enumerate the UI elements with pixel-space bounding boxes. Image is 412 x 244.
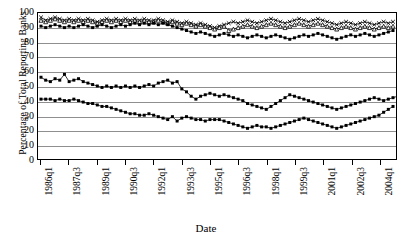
data-point	[265, 108, 268, 111]
data-point	[391, 24, 395, 28]
data-point	[82, 80, 85, 83]
data-point	[152, 22, 155, 25]
data-point	[232, 35, 235, 38]
data-point	[345, 105, 348, 108]
data-point	[129, 112, 132, 115]
data-point	[335, 27, 339, 31]
data-point	[49, 25, 52, 28]
x-tick	[97, 160, 98, 165]
data-point	[288, 24, 292, 28]
data-point	[232, 122, 235, 125]
data-point	[223, 93, 226, 96]
data-point	[316, 32, 319, 35]
data-point	[302, 117, 305, 120]
data-point	[302, 23, 306, 27]
data-point	[194, 98, 197, 101]
data-point	[91, 83, 94, 86]
data-point	[119, 86, 122, 89]
data-point	[377, 26, 381, 30]
data-point	[157, 115, 160, 118]
data-point	[255, 105, 258, 108]
data-point	[194, 118, 197, 121]
y-tick-label: 0	[29, 155, 34, 165]
data-point	[260, 125, 263, 128]
x-tick-label: 1989q1	[101, 167, 111, 196]
data-point	[190, 31, 193, 34]
data-point	[392, 29, 395, 32]
data-point	[171, 115, 174, 118]
data-point	[105, 85, 108, 88]
data-point	[91, 102, 94, 105]
data-point	[335, 38, 338, 41]
data-point	[129, 86, 132, 89]
data-point	[288, 38, 291, 41]
data-point	[377, 98, 380, 101]
data-point	[199, 31, 202, 34]
x-tick-label: 2004q1	[384, 167, 394, 196]
data-point	[279, 99, 282, 102]
data-point	[335, 127, 338, 130]
data-point	[344, 24, 348, 28]
data-point	[250, 24, 254, 28]
data-point	[269, 21, 273, 25]
data-point	[39, 98, 42, 101]
data-point	[386, 26, 390, 30]
data-point	[354, 35, 357, 38]
data-point	[162, 80, 165, 83]
data-point	[185, 29, 188, 32]
data-point	[86, 25, 89, 28]
data-point	[227, 33, 230, 36]
data-point	[218, 118, 221, 121]
data-point	[180, 23, 184, 27]
data-point	[138, 20, 142, 24]
data-point	[382, 32, 385, 35]
data-point	[321, 104, 324, 107]
x-tick	[295, 160, 296, 165]
y-tick-label: 40	[24, 96, 34, 106]
data-point	[77, 99, 80, 102]
data-point	[340, 125, 343, 128]
data-point	[363, 32, 366, 35]
data-point	[284, 36, 287, 39]
data-point	[101, 86, 104, 89]
data-point	[49, 80, 52, 83]
data-point	[326, 105, 329, 108]
data-point	[354, 121, 357, 124]
data-point	[293, 36, 296, 39]
data-point	[353, 27, 357, 31]
y-tick-label: 60	[24, 66, 34, 76]
data-point	[246, 36, 249, 39]
data-point	[138, 114, 141, 117]
data-point	[162, 22, 165, 25]
data-point	[326, 35, 329, 38]
data-point	[44, 26, 47, 29]
data-point	[180, 117, 183, 120]
data-point	[54, 77, 57, 80]
data-point	[96, 25, 99, 28]
data-point	[373, 115, 376, 118]
y-tick-label: 90	[24, 22, 34, 32]
data-point	[115, 85, 118, 88]
y-tick-label: 30	[24, 111, 34, 121]
data-point	[138, 23, 141, 26]
x-tick	[125, 160, 126, 165]
data-point	[152, 114, 155, 117]
data-point	[208, 92, 211, 95]
data-point	[58, 79, 61, 82]
data-point	[292, 23, 296, 27]
data-point	[199, 118, 202, 121]
data-point	[227, 95, 230, 98]
data-point	[339, 26, 343, 30]
data-point	[279, 124, 282, 127]
data-point	[185, 115, 188, 118]
data-point	[143, 85, 146, 88]
x-tick-label: 1986q1	[44, 167, 54, 196]
data-point	[91, 26, 94, 29]
data-point	[128, 20, 132, 24]
data-point	[274, 23, 278, 27]
data-point	[115, 108, 118, 111]
data-point	[119, 20, 123, 24]
data-point	[54, 23, 57, 26]
data-point	[54, 99, 57, 102]
data-point	[260, 35, 263, 38]
